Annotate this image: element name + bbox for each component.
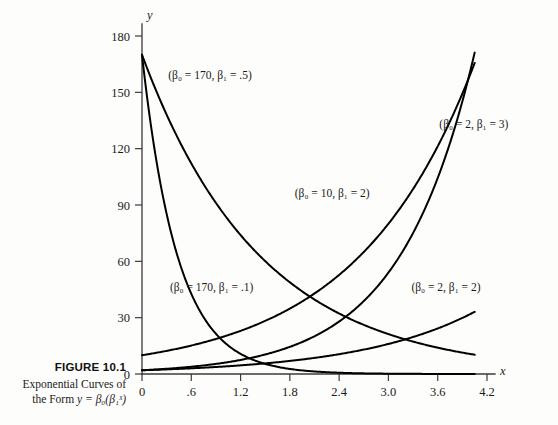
- figure-caption-formula: y = β₀(β₁ˣ): [77, 393, 126, 405]
- x-axis-tick-label: 1.8: [282, 385, 298, 399]
- y-axis-tick-label: 180: [111, 30, 130, 44]
- figure-container: FIGURE 10.1 Exponential Curves of the Fo…: [0, 0, 558, 425]
- curve-line: [142, 312, 475, 370]
- curve-annotation-label: (β₀ = 2, β₁ = 3): [439, 118, 508, 131]
- figure-caption-line-2-prefix: the Form: [32, 393, 77, 405]
- figure-caption: FIGURE 10.1 Exponential Curves of the Fo…: [0, 360, 126, 408]
- x-axis-tick-label: 4.2: [479, 385, 495, 399]
- curve-annotation-label: (β₀ = 10, β₁ = 2): [295, 187, 370, 200]
- x-axis-tick-label: 3.6: [430, 385, 446, 399]
- curve-annotation-label: (β₀ = 2, β₁ = 2): [411, 281, 480, 294]
- x-axis-tick-label: 1.2: [233, 385, 249, 399]
- curve-line: [142, 53, 475, 371]
- y-axis-label: y: [145, 8, 153, 22]
- figure-caption-title: FIGURE 10.1: [0, 360, 126, 375]
- y-axis-tick-label: 120: [111, 142, 130, 156]
- y-axis-tick-label: 150: [111, 86, 130, 100]
- curve-annotation-label: (β₀ = 170, β₁ = .5): [168, 69, 252, 82]
- curve-annotation-label: (β₀ = 170, β₁ = .1): [170, 281, 254, 294]
- x-axis-tick-label: 2.4: [331, 385, 347, 399]
- chart-curves: [142, 53, 475, 374]
- x-axis-tick-label: .6: [187, 385, 196, 399]
- figure-caption-line-1: Exponential Curves of: [0, 377, 126, 392]
- y-axis-tick-label: 60: [118, 255, 131, 269]
- x-axis-tick-label: 3.0: [381, 385, 397, 399]
- curve-line: [142, 55, 475, 374]
- y-axis-tick-label: 30: [118, 311, 131, 325]
- x-axis-label: x: [499, 364, 506, 378]
- curve-line: [142, 55, 475, 355]
- figure-caption-line-2: the Form y = β₀(β₁ˣ): [0, 392, 126, 407]
- y-axis-tick-label: 90: [118, 199, 131, 213]
- x-axis-tick-label: 0: [139, 385, 145, 399]
- chart-axes: 03060901201501800.61.21.82.43.03.64.2yx: [111, 8, 506, 399]
